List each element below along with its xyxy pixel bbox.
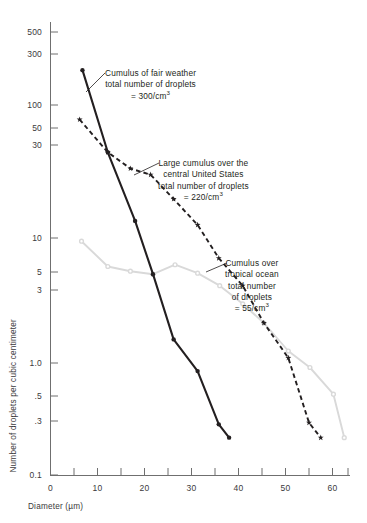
annotation-fair-exponent: 3 <box>167 89 171 96</box>
x-axis-ticks <box>51 468 349 476</box>
annotation-tropical-line1: Cumulus over <box>225 258 279 269</box>
y-tick-label-30: 30 <box>4 140 42 150</box>
annotation-large-line4: = 220/cm3 <box>158 192 249 203</box>
annotation-tropical-ocean: Cumulus over tropical ocean total number… <box>225 258 279 314</box>
data-point-marker <box>332 392 336 396</box>
data-point-marker <box>286 349 290 353</box>
data-point-marker <box>308 366 312 370</box>
annotation-fair-weather: Cumulus of fair weather total number of … <box>105 68 196 102</box>
annotation-fair-line2: total number of droplets <box>105 79 196 90</box>
y-tick-label-100: 100 <box>4 100 42 110</box>
annotation-large-line2: central United States <box>158 169 249 180</box>
x-tick-label-30: 30 <box>179 483 204 493</box>
y-axis-ticks <box>51 32 59 475</box>
annotation-tropical-line4: of droplets <box>225 292 279 303</box>
data-point-marker <box>217 422 221 426</box>
annotation-tropical-line2: tropical ocean <box>225 269 279 280</box>
data-point-marker <box>133 219 137 223</box>
data-point-marker <box>171 337 175 341</box>
leader-line-tropical <box>206 263 227 272</box>
y-tick-label-5: 5 <box>4 267 42 277</box>
y-tick-label-500: 500 <box>4 27 42 37</box>
annotation-large-value: = 220/cm <box>184 192 220 202</box>
data-point-marker <box>127 165 133 171</box>
data-point-marker <box>80 239 84 243</box>
x-tick-label-60: 60 <box>320 483 345 493</box>
annotation-fair-line3: = 300/cm3 <box>105 91 196 102</box>
y-tick-label-50: 50 <box>4 123 42 133</box>
annotation-fair-line1: Cumulus of fair weather <box>105 68 196 79</box>
x-tick-label-20: 20 <box>132 483 157 493</box>
annotation-tropical-line5: = 55/cm3 <box>225 303 279 314</box>
data-point-marker <box>106 150 110 154</box>
annotation-fair-value: = 300/cm <box>131 91 167 101</box>
data-point-marker <box>318 435 324 441</box>
data-point-marker <box>342 436 346 440</box>
data-point-marker <box>218 284 222 288</box>
y-axis-title: Number of droplets per cubic centimeter <box>9 323 18 473</box>
x-tick-label-50: 50 <box>273 483 298 493</box>
chart-figure: 500 300 100 50 30 10 5 3 1.0 .5 .3 0.1 0… <box>0 0 367 523</box>
data-point-marker <box>151 272 155 276</box>
data-point-marker <box>227 435 231 439</box>
annotation-tropical-exponent: 3 <box>265 301 269 308</box>
annotation-large-exponent: 3 <box>219 190 223 197</box>
y-tick-label-3: 3 <box>4 285 42 295</box>
annotation-tropical-value: = 55/cm <box>235 303 266 313</box>
data-point-marker <box>80 68 84 72</box>
data-point-marker <box>195 369 199 373</box>
x-axis-title: Diameter (µm) <box>28 502 83 511</box>
x-tick-label-0: 0 <box>38 483 63 493</box>
annotation-large-line1: Large cumulus over the <box>158 158 249 169</box>
series-fair-weather <box>80 68 231 440</box>
data-point-marker <box>129 269 133 273</box>
data-point-marker <box>196 271 200 275</box>
data-point-marker <box>106 265 110 269</box>
x-tick-label-10: 10 <box>85 483 110 493</box>
y-tick-label-10: 10 <box>4 233 42 243</box>
annotation-large-cumulus: Large cumulus over the central United St… <box>158 158 249 203</box>
x-tick-label-40: 40 <box>226 483 251 493</box>
annotation-large-line3: total number of droplets <box>158 181 249 192</box>
annotation-tropical-line3: total number <box>225 281 279 292</box>
y-tick-label-300: 300 <box>4 49 42 59</box>
leader-line-fair <box>86 73 105 92</box>
data-point-marker <box>173 263 177 267</box>
